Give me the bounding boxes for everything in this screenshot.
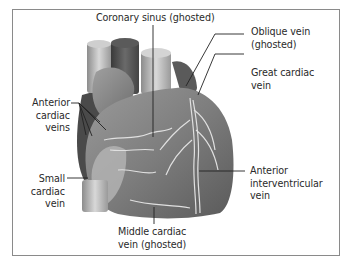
label-line: Anterior [250, 165, 323, 178]
label-line: (ghosted) [251, 39, 310, 52]
label-oblique-vein: Oblique vein (ghosted) [251, 26, 310, 51]
label-line: cardiac [22, 186, 65, 199]
label-coronary-sinus: Coronary sinus (ghosted) [96, 12, 215, 25]
pulmonary-trunk [141, 52, 171, 94]
label-small-cardiac-vein: Small cardiac vein [22, 173, 65, 211]
label-line: Oblique vein [251, 26, 310, 39]
label-line: cardiac [22, 110, 70, 123]
inferior-vena-cava [82, 180, 108, 212]
label-line: Great cardiac [251, 67, 314, 80]
label-line: Middle cardiac [118, 226, 186, 239]
label-line: vein [250, 190, 323, 203]
label-anterior-cardiac-veins: Anterior cardiac veins [22, 97, 70, 135]
label-line: veins [22, 122, 70, 135]
label-line: vein [251, 80, 314, 93]
label-line: Anterior [22, 97, 70, 110]
label-line: Small [22, 173, 65, 186]
label-anterior-interventricular-vein: Anterior interventricular vein [250, 165, 323, 203]
label-line: vein [22, 198, 65, 211]
label-middle-cardiac-vein: Middle cardiac vein (ghosted) [118, 226, 186, 251]
label-great-cardiac-vein: Great cardiac vein [251, 67, 314, 92]
label-line: vein (ghosted) [118, 239, 186, 252]
label-line: interventricular [250, 178, 323, 191]
